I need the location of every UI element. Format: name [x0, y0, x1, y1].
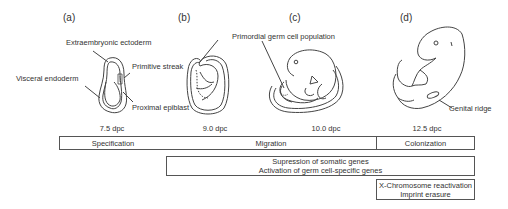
- phase-colonization-label: Colonization: [405, 139, 446, 148]
- panel-label-d: (d): [400, 12, 412, 23]
- event-suppression-text: Supression of somatic genes: [272, 157, 368, 166]
- phase-colonization: Colonization: [376, 136, 475, 150]
- stage-label-d: 12.5 dpc: [413, 124, 442, 133]
- annotation-visceral-endoderm: Visceral endoderm: [16, 74, 78, 83]
- embryo-12-5-dpc: [393, 27, 465, 109]
- event-epigenetic-reprogramming: X-Chromosome reactivation Imprint erasur…: [376, 179, 475, 200]
- phase-migration-label: Migration: [256, 139, 287, 148]
- stage-label-b: 9.0 dpc: [203, 124, 228, 133]
- event-activation-text: Activation of germ cell-specific genes: [259, 166, 382, 175]
- phase-migration: Migration: [166, 136, 377, 150]
- phase-specification-label: Specification: [92, 139, 135, 148]
- event-imprint-erasure-text: Imprint erasure: [400, 190, 450, 199]
- event-gene-regulation: Supression of somatic genes Activation o…: [166, 156, 475, 176]
- stage-label-c: 10.0 dpc: [312, 124, 341, 133]
- stage-label-a: 7.5 dpc: [100, 124, 125, 133]
- embryo-7-5-dpc: [99, 58, 127, 113]
- phase-specification: Specification: [59, 136, 167, 150]
- annotation-proximal-epiblast: Proximal epiblast: [132, 103, 189, 112]
- panel-label-b: (b): [178, 12, 190, 23]
- annotation-extraembryonic-ectoderm: Extraembryonic ectoderm: [66, 38, 151, 47]
- event-x-reactivation-text: X-Chromosome reactivation: [379, 181, 472, 190]
- annotation-primitive-streak: Primitive streak: [132, 62, 183, 71]
- annotation-primordial-germ-cell-population: Primordial germ cell population: [232, 32, 335, 41]
- embryo-9-0-dpc: [187, 56, 229, 114]
- annotation-genital-ridge: Genital ridge: [449, 104, 492, 113]
- panel-label-a: (a): [63, 12, 75, 23]
- panel-label-c: (c): [289, 12, 301, 23]
